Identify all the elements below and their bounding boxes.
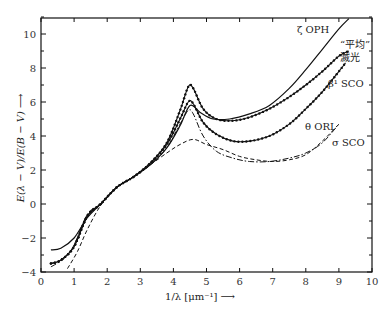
y-tick-label: 10 bbox=[23, 29, 36, 40]
x-tick-label: 2 bbox=[104, 276, 110, 287]
extinction-chart: 012345678910 −4−20246810 ζ OPH “平均” 滅光 β… bbox=[0, 0, 388, 310]
x-tick-label: 9 bbox=[336, 276, 342, 287]
y-tick-label: 4 bbox=[30, 131, 36, 142]
label-beta-sco: β¹ SCO bbox=[328, 78, 364, 89]
x-tick-label: 1 bbox=[71, 276, 77, 287]
label-zeta-oph: ζ OPH bbox=[297, 24, 330, 35]
x-tick-label: 4 bbox=[170, 276, 176, 287]
curve-0 bbox=[51, 19, 349, 250]
x-tick-label: 10 bbox=[366, 276, 379, 287]
label-sigma-sco: σ SCO bbox=[332, 137, 365, 148]
curve-1 bbox=[51, 51, 349, 264]
y-tick-label: 8 bbox=[30, 63, 36, 74]
curves bbox=[50, 19, 349, 269]
curve-2 bbox=[51, 63, 346, 264]
y-tick-label: 2 bbox=[30, 165, 36, 176]
label-theta-ori: θ ORI bbox=[305, 121, 334, 132]
y-axis-title: E(λ − V)/E(B − V) ⟶ bbox=[15, 94, 26, 204]
x-tick-label: 7 bbox=[270, 276, 276, 287]
x-tick-label: 6 bbox=[236, 276, 242, 287]
y-tick-label: −4 bbox=[21, 267, 36, 278]
x-tick-label: 5 bbox=[203, 276, 209, 287]
label-average-line2: 滅光 bbox=[340, 51, 360, 63]
label-average-line1: “平均” bbox=[340, 39, 370, 50]
x-axis: 012345678910 bbox=[38, 18, 379, 287]
y-tick-label: 0 bbox=[30, 199, 36, 210]
x-tick-label: 3 bbox=[137, 276, 143, 287]
y-tick-label: 6 bbox=[30, 97, 36, 108]
curve-3 bbox=[51, 110, 339, 267]
x-tick-label: 0 bbox=[38, 276, 44, 287]
x-axis-title: 1/λ [μm⁻¹] ⟶ bbox=[165, 291, 235, 302]
y-tick-label: −2 bbox=[21, 233, 36, 244]
x-tick-label: 8 bbox=[303, 276, 309, 287]
plot-frame bbox=[41, 18, 372, 272]
